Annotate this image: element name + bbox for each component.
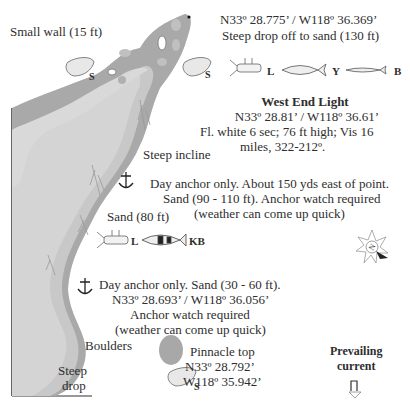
prevailing-current-label-1: Prevailing: [330, 344, 382, 358]
anchor2-note-line1: Day anchor only. Sand (30 - 60 ft).: [99, 278, 280, 292]
compass-rose-icon: N: [356, 230, 388, 263]
scallop-code: S: [89, 70, 95, 84]
top-drop-note: Steep drop off to sand (130 ft): [222, 29, 379, 43]
anchor-icon: [78, 278, 92, 294]
steep-drop-label-1: Steep: [58, 364, 87, 378]
west-end-light-coordinates: N33º 28.81’ / W118º 36.61’: [212, 110, 402, 124]
small-wall-label: Small wall (15 ft): [10, 25, 102, 39]
lobster-code: L: [131, 234, 138, 248]
prevailing-current-label-2: current: [337, 359, 375, 373]
yellowtail-code: Y: [332, 64, 340, 78]
pinnacle-lat: N33º 28.792’: [185, 360, 255, 374]
boulders-label: Boulders: [85, 339, 132, 353]
scallop-code: S: [194, 380, 200, 394]
west-end-light-desc-2: miles, 322-212º.: [240, 140, 325, 154]
sand-80-label: Sand (80 ft): [107, 210, 169, 224]
pinnacle-title: Pinnacle top: [190, 345, 255, 359]
barracuda-fish-icon: [346, 66, 386, 74]
top-coordinates: N33º 28.775’ / W118º 36.369’: [220, 13, 377, 27]
yellowtail-fish-icon: [282, 64, 326, 76]
anchor2-note-line2: N33º 28.693’ / W118º 36.056’: [112, 293, 269, 307]
current-arrow-icon: [349, 381, 361, 398]
anchor1-note-line3: (weather can come up quick): [194, 207, 345, 221]
barracuda-code: B: [394, 64, 401, 78]
steep-incline-label: Steep incline: [143, 148, 211, 162]
anchor2-note-line4: (weather can come up quick): [115, 323, 266, 337]
steep-drop-label-2: drop: [62, 379, 86, 393]
scallop-code: S: [205, 68, 211, 82]
kelp-bass-fish-icon: [142, 234, 186, 246]
anchor1-note-line1: Day anchor only. About 150 yds east of p…: [150, 177, 389, 191]
west-end-light-title: West End Light: [240, 95, 370, 109]
lobster-code: L: [267, 64, 274, 78]
anchor2-note-line3: Anchor watch required: [130, 308, 250, 322]
pinnacle-rock: [159, 335, 183, 365]
anchor1-note-line2: Sand (90 - 110 ft). Anchor watch require…: [163, 192, 381, 206]
west-end-light-desc-1: Fl. white 6 sec; 76 ft high; Vis 16: [200, 125, 373, 139]
kelp-bass-code: KB: [189, 234, 205, 248]
